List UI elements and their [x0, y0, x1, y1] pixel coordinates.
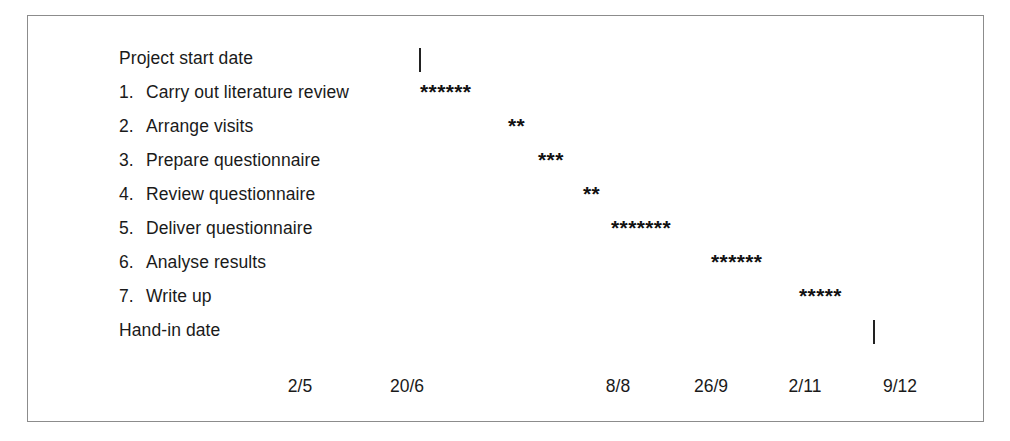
gantt-row: 4.Review questionnaire** [28, 177, 983, 211]
task-duration-bar: ***** [799, 279, 842, 313]
task-label: 4.Review questionnaire [119, 177, 315, 211]
task-number: 3. [119, 143, 146, 177]
task-label-text: Hand-in date [119, 320, 220, 340]
gantt-row: 3.Prepare questionnaire*** [28, 143, 983, 177]
gantt-plot-area: Project start date1.Carry out literature… [28, 16, 983, 421]
axis-tick-label: 9/12 [883, 371, 917, 401]
task-label-text: Deliver questionnaire [146, 218, 313, 238]
gantt-row: 1.Carry out literature review****** [28, 75, 983, 109]
task-label: 7.Write up [119, 279, 212, 313]
gantt-row: 6.Analyse results****** [28, 245, 983, 279]
task-duration-bar: ****** [420, 75, 471, 109]
task-number: 1. [119, 75, 146, 109]
task-duration-bar: ** [583, 177, 600, 211]
milestone-tick-icon [873, 320, 875, 344]
task-number: 4. [119, 177, 146, 211]
task-label-text: Project start date [119, 48, 253, 68]
task-label: 3.Prepare questionnaire [119, 143, 320, 177]
task-label-text: Arrange visits [146, 116, 253, 136]
task-number: 2. [119, 109, 146, 143]
gantt-row: 2.Arrange visits** [28, 109, 983, 143]
axis-tick-label: 26/9 [694, 371, 728, 401]
task-number: 5. [119, 211, 146, 245]
gantt-row: 5.Deliver questionnaire******* [28, 211, 983, 245]
task-label-text: Analyse results [146, 252, 266, 272]
task-duration-bar: ******* [611, 211, 671, 245]
gantt-row: Project start date [28, 41, 983, 75]
task-label: 5.Deliver questionnaire [119, 211, 313, 245]
task-label: 2.Arrange visits [119, 109, 253, 143]
task-label: Project start date [119, 41, 253, 75]
task-number: 7. [119, 279, 146, 313]
gantt-row: Hand-in date [28, 313, 983, 347]
gantt-chart-frame: Project start date1.Carry out literature… [27, 15, 984, 422]
task-duration-bar: ** [508, 109, 525, 143]
task-duration-bar: *** [538, 143, 564, 177]
task-label-text: Review questionnaire [146, 184, 315, 204]
axis-tick-label: 2/5 [288, 371, 312, 401]
date-axis: 2/520/68/826/92/119/12 [28, 371, 983, 401]
axis-tick-label: 20/6 [390, 371, 424, 401]
task-label: 6.Analyse results [119, 245, 266, 279]
axis-tick-label: 2/11 [789, 371, 822, 401]
milestone-tick-icon [419, 48, 421, 72]
task-label-text: Carry out literature review [146, 82, 349, 102]
axis-tick-label: 8/8 [606, 371, 630, 401]
task-label: Hand-in date [119, 313, 220, 347]
task-label: 1.Carry out literature review [119, 75, 349, 109]
task-duration-bar: ****** [711, 245, 762, 279]
gantt-row: 7.Write up***** [28, 279, 983, 313]
task-label-text: Prepare questionnaire [146, 150, 320, 170]
task-number: 6. [119, 245, 146, 279]
task-label-text: Write up [146, 286, 212, 306]
